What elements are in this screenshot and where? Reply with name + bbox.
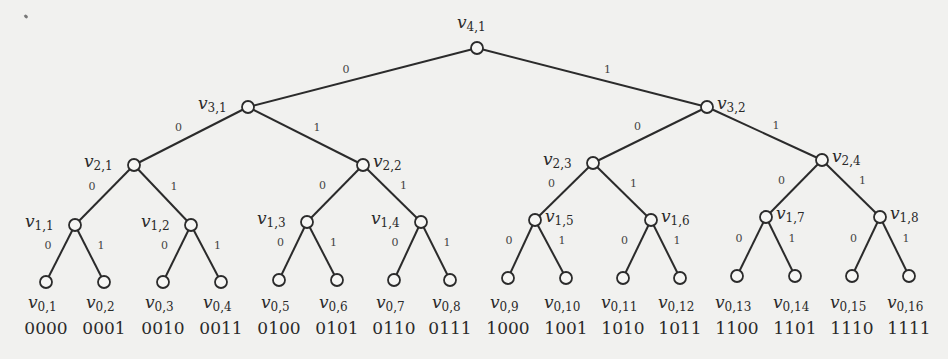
- leaf-label: v0,9: [490, 294, 519, 313]
- node-label: v1,5: [545, 208, 574, 227]
- leaf-label: v0,15: [830, 294, 866, 313]
- leaf-label: v0,5: [261, 294, 290, 313]
- tree-edge: [852, 217, 880, 276]
- edge-bit-label: 1: [214, 240, 221, 251]
- node-label: v1,4: [371, 210, 400, 229]
- binary-tree-diagram: 010101010101010101010101010101v4,1v3,1v2…: [0, 0, 948, 359]
- tree-node-circle: [502, 272, 514, 284]
- edge-bit-label: 1: [98, 240, 105, 251]
- tree-node-circle: [98, 276, 110, 288]
- tree-node-circle: [529, 214, 541, 226]
- node-label: v1,2: [141, 213, 170, 232]
- leaf-binary-code: 0100: [257, 320, 300, 337]
- tree-edge: [593, 107, 707, 163]
- node-label-root: v4,1: [457, 14, 486, 33]
- edge-bit-label: 0: [45, 240, 52, 251]
- tree-node-circle: [789, 270, 801, 282]
- tree-node-circle: [645, 214, 657, 226]
- tree-edge: [307, 165, 363, 222]
- leaf-binary-code: 1001: [544, 320, 587, 337]
- tree-edge: [163, 225, 191, 282]
- leaf-label: v0,7: [376, 294, 405, 313]
- tree-node-circle: [69, 219, 81, 231]
- tree-node-circle: [560, 272, 572, 284]
- tree-node-circle: [273, 274, 285, 286]
- tree-node-circle: [242, 101, 254, 113]
- edge-bit-label: 0: [277, 237, 284, 248]
- tree-node-circle: [617, 272, 629, 284]
- tree-edge: [421, 222, 450, 280]
- tree-node-circle: [903, 270, 915, 282]
- node-label: v1,1: [25, 213, 54, 232]
- tree-edge: [593, 163, 651, 220]
- edge-bit-label: 0: [319, 180, 326, 191]
- tree-edge: [75, 225, 104, 282]
- edge-bit-label: 1: [444, 237, 451, 248]
- leaf-label: v0,13: [715, 294, 751, 313]
- tree-node-circle: [388, 274, 400, 286]
- tree-edge: [191, 225, 221, 282]
- node-label: v1,6: [661, 208, 690, 227]
- leaf-label: v0,14: [773, 294, 809, 313]
- tree-edge: [766, 217, 795, 276]
- edge-bit-label: 0: [621, 235, 628, 246]
- tree-edge: [707, 107, 822, 160]
- tree-node-circle: [215, 276, 227, 288]
- edge-bit-label: 1: [674, 235, 681, 246]
- leaf-binary-code: 0111: [428, 320, 471, 337]
- leaf-label: v0,3: [145, 294, 174, 313]
- tree-node-circle: [587, 157, 599, 169]
- leaf-label: v0,11: [601, 294, 637, 313]
- tree-node-circle: [444, 274, 456, 286]
- tree-node-circle: [128, 159, 140, 171]
- leaf-label: v0,10: [544, 294, 580, 313]
- edge-bit-label: 0: [548, 178, 555, 189]
- leaf-binary-code: 0110: [372, 320, 415, 337]
- node-label: v2,2: [373, 153, 402, 172]
- edge-bit-label: 1: [330, 237, 337, 248]
- tree-node-circle: [185, 219, 197, 231]
- node-label: v1,8: [890, 205, 919, 224]
- leaf-binary-code: 0001: [82, 320, 125, 337]
- leaf-binary-code: 1110: [830, 320, 873, 337]
- tree-node-circle: [357, 159, 369, 171]
- edge-bit-label: 0: [506, 235, 513, 246]
- leaf-label: v0,1: [28, 294, 57, 313]
- edge-bit-label: 1: [789, 233, 796, 244]
- edge-bit-label: 0: [89, 181, 96, 192]
- tree-edge: [737, 217, 766, 276]
- leaf-label: v0,2: [86, 294, 115, 313]
- tree-node-circle: [846, 270, 858, 282]
- tree-node-circle: [157, 276, 169, 288]
- edge-bit-label: 0: [778, 175, 785, 186]
- leaf-binary-code: 0011: [199, 320, 242, 337]
- edge-bit-label: 1: [314, 122, 321, 133]
- tree-node-circle: [731, 270, 743, 282]
- edge-bit-label: 1: [630, 178, 637, 189]
- tree-edge: [477, 48, 707, 107]
- tree-node-circle: [674, 272, 686, 284]
- node-label: v3,1: [198, 95, 227, 114]
- leaf-label: v0,12: [658, 294, 694, 313]
- tree-edge: [623, 220, 651, 278]
- node-label: v3,2: [717, 95, 746, 114]
- tree-edge: [394, 222, 421, 280]
- tree-edge: [248, 107, 363, 165]
- tree-edge: [508, 220, 535, 278]
- edge-bit-label: 1: [171, 181, 178, 192]
- edge-bit-label: 1: [859, 175, 866, 186]
- leaf-label: v0,6: [319, 294, 348, 313]
- edge-bit-label: 1: [773, 120, 780, 131]
- tree-edge: [880, 217, 909, 276]
- leaf-binary-code: 1101: [773, 320, 816, 337]
- tree-edge: [651, 220, 680, 278]
- tree-node-circle: [701, 101, 713, 113]
- tree-edge: [248, 48, 477, 107]
- tree-node-circle: [301, 216, 313, 228]
- edge-bit-label: 1: [604, 64, 611, 75]
- leaf-binary-code: 0010: [141, 320, 184, 337]
- leaf-binary-code: 1100: [715, 320, 758, 337]
- tree-node-circle: [40, 276, 52, 288]
- tree-node-circle: [874, 211, 886, 223]
- tree-node-circle: [760, 211, 772, 223]
